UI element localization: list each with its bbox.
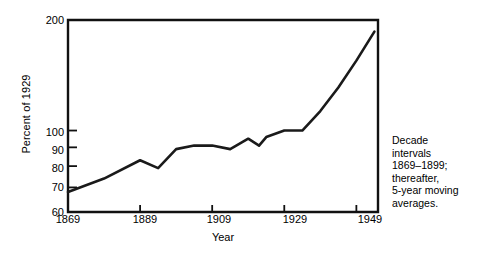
data-series-line <box>68 32 374 192</box>
frame-path <box>68 20 378 212</box>
y-tick-marks <box>68 131 77 188</box>
axis-frame <box>68 20 378 212</box>
plot-area <box>0 0 490 255</box>
chart-figure: Percent of 1929 200 100 90 80 70 60 1869… <box>0 0 490 255</box>
